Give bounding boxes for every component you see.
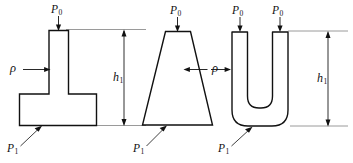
p1-leader-head-t bbox=[35, 126, 42, 132]
p0-arrow-head-u-left bbox=[237, 26, 242, 32]
h1-dim-arrowhead-top-right bbox=[326, 31, 331, 38]
t-shaped-vessel-outline bbox=[20, 31, 97, 126]
p1-leader-shaft-t bbox=[21, 128, 40, 146]
h1-dim-arrowhead-bottom-left bbox=[122, 119, 127, 126]
p0-arrow-head-u-right bbox=[277, 26, 282, 32]
p1-leader-shaft-trap bbox=[147, 128, 165, 146]
figure-drawing bbox=[0, 0, 353, 163]
label-p1-t-shape: P1 bbox=[7, 143, 18, 155]
label-p0-trapezoid: P0 bbox=[170, 5, 181, 17]
label-rho-t-shape: ρ bbox=[10, 62, 16, 75]
h1-dim-arrowhead-top-left bbox=[122, 30, 127, 37]
u-tube-vessel-outline bbox=[232, 32, 288, 126]
figure-container: P0 ρ P1 P0 ρ P1 P0 P0 P1 h1 h1 bbox=[0, 0, 353, 163]
p1-leader-head-u bbox=[245, 127, 253, 133]
rho-arrow-head-u bbox=[225, 67, 231, 72]
trapezoidal-vessel-outline bbox=[143, 32, 213, 126]
label-h1-right: h1 bbox=[317, 72, 327, 84]
label-p1-trapezoid: P1 bbox=[133, 143, 144, 155]
label-p0-u-tube-left: P0 bbox=[232, 5, 243, 17]
h1-dim-arrowhead-bottom-right bbox=[326, 120, 331, 127]
p1-leader-head-trap bbox=[160, 126, 167, 132]
label-p1-u-tube: P1 bbox=[218, 143, 229, 155]
label-rho-trapezoid: ρ bbox=[212, 62, 218, 75]
label-h1-left: h1 bbox=[113, 71, 123, 83]
rho-arrow-head-trap bbox=[184, 67, 190, 72]
label-p0-t-shape: P0 bbox=[51, 4, 62, 16]
p1-leader-shaft-u bbox=[232, 129, 251, 146]
label-p0-u-tube-right: P0 bbox=[272, 5, 283, 17]
